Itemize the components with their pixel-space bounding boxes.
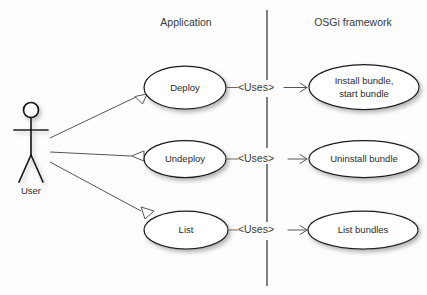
- actor-label: User: [21, 185, 41, 196]
- association-user-to-list: [50, 162, 141, 211]
- use-case-row-undeploy: Undeploy <Uses> Uninstall bundle: [144, 141, 419, 178]
- column-header-application: Application: [160, 16, 212, 28]
- arrowhead-undeploy: [132, 151, 145, 161]
- arrowhead-deploy: [135, 94, 147, 104]
- association-user-to-deploy: [50, 97, 136, 138]
- use-case-row-deploy: Deploy <Uses> Install bundle, start bund…: [144, 65, 419, 110]
- uses-label-list: <Uses>: [238, 223, 274, 235]
- column-header-osgi-framework: OSGi framework: [314, 16, 392, 28]
- actor-associations: [50, 97, 141, 211]
- use-case-install-bundle-label-line1: Install bundle,: [335, 75, 394, 86]
- use-case-list-bundles-label: List bundles: [338, 224, 389, 235]
- uses-label-deploy: <Uses>: [238, 81, 274, 93]
- use-case-uninstall-bundle-label: Uninstall bundle: [330, 153, 398, 164]
- arrowhead-list: [141, 207, 154, 219]
- use-case-install-bundle-label-line2: start bundle: [339, 88, 389, 99]
- actor-user: User: [14, 103, 48, 196]
- uses-label-undeploy: <Uses>: [238, 152, 274, 164]
- actor-left-leg-line: [19, 155, 31, 182]
- use-case-list-label: List: [179, 224, 194, 235]
- use-case-undeploy-label: Undeploy: [165, 153, 205, 164]
- use-case-deploy-label: Deploy: [170, 82, 200, 93]
- stick-figure-actor-icon: [14, 103, 48, 183]
- actor-right-leg-line: [31, 155, 43, 182]
- association-user-to-undeploy: [50, 152, 131, 156]
- actor-head-icon: [24, 103, 39, 118]
- diagram-canvas: Application OSGi framework: [0, 0, 427, 295]
- use-case-diagram: Application OSGi framework: [0, 0, 427, 295]
- use-case-row-list: List <Uses> List bundles: [144, 211, 418, 249]
